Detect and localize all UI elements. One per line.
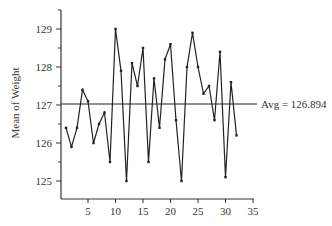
y-tick-label: 127 <box>36 99 53 111</box>
y-tick-label: 126 <box>36 137 53 149</box>
x-tick-label: 35 <box>248 205 260 217</box>
x-tick-label: 20 <box>165 205 177 217</box>
x-tick-label: 15 <box>138 205 150 217</box>
average-label: Avg = 126.894 <box>261 98 327 110</box>
data-point-marker <box>202 92 204 94</box>
y-tick-label: 129 <box>36 23 53 35</box>
data-point-marker <box>114 28 116 30</box>
x-axis: 5101520253035 <box>61 199 259 217</box>
data-point-marker <box>70 146 72 148</box>
data-point-marker <box>98 123 100 125</box>
data-point-marker <box>153 77 155 79</box>
data-point-marker <box>186 66 188 68</box>
data-point-marker <box>230 81 232 83</box>
data-point-marker <box>191 32 193 34</box>
data-point-marker <box>197 66 199 68</box>
y-tick-label: 125 <box>36 175 53 187</box>
data-point-marker <box>142 47 144 49</box>
data-point-marker <box>208 85 210 87</box>
data-point-marker <box>109 161 111 163</box>
data-point-marker <box>213 119 215 121</box>
series-line <box>66 29 237 181</box>
data-point-marker <box>87 100 89 102</box>
data-point-marker <box>81 89 83 91</box>
data-point-marker <box>131 62 133 64</box>
data-point-marker <box>147 161 149 163</box>
data-point-marker <box>164 58 166 60</box>
data-point-marker <box>92 142 94 144</box>
x-tick-label: 10 <box>110 205 122 217</box>
data-point-marker <box>180 180 182 182</box>
x-tick-label: 30 <box>220 205 232 217</box>
y-tick-label: 128 <box>36 61 53 73</box>
data-point-marker <box>120 70 122 72</box>
control-chart: Mean of Weight 125126127128129 510152025… <box>0 0 332 226</box>
data-point-marker <box>76 127 78 129</box>
x-tick-label: 5 <box>85 205 91 217</box>
y-axis-label: Mean of Weight <box>9 67 21 138</box>
data-point-marker <box>158 127 160 129</box>
x-tick-label: 25 <box>193 205 205 217</box>
data-point-marker <box>235 134 237 136</box>
data-point-marker <box>125 180 127 182</box>
data-point-marker <box>65 127 67 129</box>
y-axis: 125126127128129 <box>36 10 62 199</box>
data-point-marker <box>175 119 177 121</box>
data-point-marker <box>224 176 226 178</box>
data-series <box>65 28 238 182</box>
data-point-marker <box>103 111 105 113</box>
data-point-marker <box>219 51 221 53</box>
data-point-marker <box>136 85 138 87</box>
data-point-marker <box>169 43 171 45</box>
